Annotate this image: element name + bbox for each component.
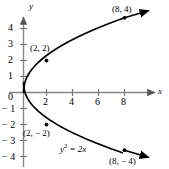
y-tick-label-neg4: − 4 [2,152,15,162]
annotation-point-2-neg2: (2, − 2) [23,129,50,138]
equation-rest: = 2x [67,144,86,154]
annotation-point-2-2: (2, 2) [30,44,50,53]
parabola-figure: y x 4 3 2 1 0 − 1 − 2 − 3 − 4 2 4 6 8 (2… [0,0,169,169]
parabola-branch-upper [24,18,125,93]
y-tick-label-2: 2 [8,55,13,65]
y-tick-label-4: 4 [8,23,13,33]
x-tick-label-6: 6 [95,97,100,107]
annotation-point-8-neg4: (8, − 4) [109,157,136,166]
y-tick-label-3: 3 [8,39,13,49]
y-axis-label: y [29,2,33,11]
x-tick-label-4: 4 [69,97,74,107]
x-tick-label-2: 2 [43,97,48,107]
y-tick-label-neg1: − 1 [2,104,15,114]
x-axis-label: x [158,87,162,96]
equation-label: y2 = 2x [60,143,86,154]
origin-label: 0 [8,92,13,102]
y-tick-label-neg2: − 2 [2,120,15,130]
y-tick-label-1: 1 [8,71,13,81]
data-point-8-neg4 [123,148,127,152]
data-point-2-2 [45,59,49,63]
curve-upper-branch [24,57,47,92]
x-tick-label-8: 8 [121,97,126,107]
data-point-8-4 [123,16,127,20]
annotation-point-8-4: (8, 4) [112,5,132,14]
y-tick-label-neg3: − 3 [2,136,15,146]
data-point-2-neg2 [45,123,49,127]
